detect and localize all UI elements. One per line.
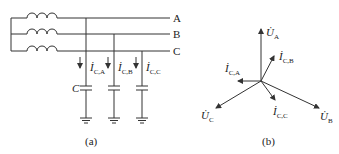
label-ica: İC,A <box>224 62 240 77</box>
label-icc: İC,C <box>272 105 288 120</box>
label-ua: U̇A <box>266 26 279 41</box>
phase-label-b: B <box>173 28 180 40</box>
label-ub: U̇B <box>320 110 333 125</box>
label-uc: U̇C <box>201 109 214 124</box>
circuit-and-phasor-diagram: A B C C İC,A İC,B İC,C (a) U̇A U̇B U̇C İ… <box>0 0 339 154</box>
label-icb: İC,B <box>278 50 294 65</box>
inductor-b <box>27 29 57 34</box>
capacitor-label: C <box>72 82 80 94</box>
current-icc-label: İC,C <box>145 61 161 76</box>
current-ica-label: İC,A <box>89 61 105 76</box>
current-icb-label: İC,B <box>117 61 133 76</box>
caption-b: (b) <box>262 135 275 148</box>
phase-label-a: A <box>173 12 181 24</box>
phasor-ub <box>261 81 319 108</box>
caption-a: (a) <box>85 135 98 148</box>
inductor-c <box>27 46 57 51</box>
phasor-icb <box>261 56 274 81</box>
phasor-uc <box>216 81 261 108</box>
inductor-a <box>27 13 57 18</box>
phase-label-c: C <box>173 45 180 57</box>
